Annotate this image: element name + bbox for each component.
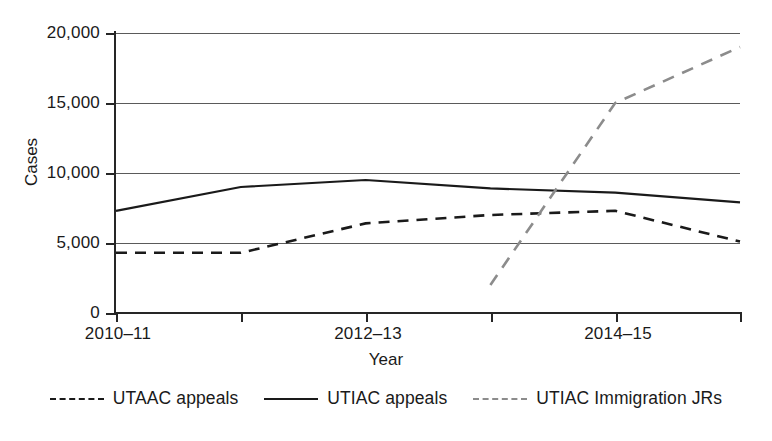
y-tick-mark-10000 xyxy=(106,173,115,175)
x-tick-mark-3 xyxy=(491,313,493,322)
x-axis-line xyxy=(114,312,742,314)
x-tick-label-2012-13: 2012–13 xyxy=(334,324,402,344)
gridline-5000 xyxy=(116,243,740,244)
x-tick-mark-5 xyxy=(740,313,742,322)
legend-item-utaac-appeals[interactable]: UTAAC appeals xyxy=(50,388,238,409)
y-tick-label-15000: 15,000 xyxy=(47,93,100,113)
y-tick-mark-20000 xyxy=(106,33,115,35)
legend-item-utiac-immigration-jrs[interactable]: UTIAC Immigration JRs xyxy=(473,388,722,409)
x-tick-mark-0 xyxy=(116,313,118,322)
legend-label-utaac-appeals: UTAAC appeals xyxy=(113,388,238,409)
gridline-15000 xyxy=(116,103,740,104)
legend-swatch-dashed-black-icon xyxy=(50,398,104,400)
x-axis-title: Year xyxy=(0,350,772,370)
x-tick-mark-2 xyxy=(366,313,368,322)
plot-area xyxy=(116,33,740,313)
y-tick-label-10000: 10,000 xyxy=(47,163,100,183)
x-tick-mark-4 xyxy=(616,313,618,322)
legend-label-utiac-immigration-jrs: UTIAC Immigration JRs xyxy=(536,388,722,409)
y-axis-title: Cases xyxy=(22,122,42,202)
legend-swatch-solid-black-icon xyxy=(264,398,318,400)
x-tick-label-2014-15: 2014–15 xyxy=(584,324,652,344)
gridline-20000 xyxy=(116,33,740,34)
chart-legend: UTAAC appeals UTIAC appeals UTIAC Immigr… xyxy=(0,388,772,409)
legend-label-utiac-appeals: UTIAC appeals xyxy=(327,388,447,409)
x-tick-mark-1 xyxy=(241,313,243,322)
y-tick-mark-5000 xyxy=(106,243,115,245)
gridline-10000 xyxy=(116,173,740,174)
legend-swatch-dashed-grey-icon xyxy=(473,398,527,400)
y-tick-label-5000: 5,000 xyxy=(56,233,100,253)
line-chart-figure: 20,000 15,000 10,000 5,000 0 2010–11 201… xyxy=(0,0,772,441)
y-tick-mark-15000 xyxy=(106,103,115,105)
y-tick-mark-0 xyxy=(106,313,115,315)
y-tick-label-20000: 20,000 xyxy=(47,23,100,43)
legend-item-utiac-appeals[interactable]: UTIAC appeals xyxy=(264,388,447,409)
y-tick-label-0: 0 xyxy=(90,303,100,323)
x-tick-label-2010-11: 2010–11 xyxy=(85,324,151,344)
